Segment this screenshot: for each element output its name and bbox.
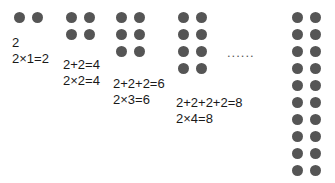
dot-group-3 xyxy=(116,12,145,63)
dot xyxy=(66,29,77,40)
dot-group-1 xyxy=(14,12,43,29)
dot xyxy=(310,148,321,159)
equation-block-4: 2+2+2+2=8 2×4=8 xyxy=(176,95,243,127)
dot-row xyxy=(292,131,321,148)
dot xyxy=(310,114,321,125)
dot-row xyxy=(178,12,207,29)
dot xyxy=(196,29,207,40)
dot xyxy=(292,148,303,159)
ellipsis-continuation: ...... xyxy=(227,46,255,59)
dot xyxy=(292,165,303,176)
dot-row xyxy=(178,29,207,46)
dot-row xyxy=(292,148,321,165)
dot-row xyxy=(14,12,43,29)
dot xyxy=(292,97,303,108)
dot-row xyxy=(116,29,145,46)
dot xyxy=(178,46,189,57)
equation-multiplication: 2×2=4 xyxy=(63,73,100,89)
dot xyxy=(292,29,303,40)
dot xyxy=(310,12,321,23)
dot xyxy=(178,63,189,74)
equation-addition: 2 xyxy=(12,35,49,51)
dot xyxy=(196,12,207,23)
dot xyxy=(134,46,145,57)
equation-addition: 2+2=4 xyxy=(63,57,100,73)
dot xyxy=(292,80,303,91)
dot xyxy=(178,29,189,40)
dot-row xyxy=(292,114,321,131)
dot-group-5 xyxy=(292,12,321,182)
dot-row xyxy=(292,63,321,80)
dot-row xyxy=(178,46,207,63)
dot-row xyxy=(116,46,145,63)
dot xyxy=(292,131,303,142)
dot xyxy=(310,97,321,108)
dot-row xyxy=(116,12,145,29)
dot xyxy=(310,46,321,57)
dot xyxy=(116,12,127,23)
dot xyxy=(292,63,303,74)
dot-group-4 xyxy=(178,12,207,80)
dot xyxy=(292,114,303,125)
dot xyxy=(32,12,43,23)
equation-addition: 2+2+2+2=8 xyxy=(176,95,243,111)
dot xyxy=(292,12,303,23)
dot-row xyxy=(292,80,321,97)
dot xyxy=(84,29,95,40)
dot-row xyxy=(292,46,321,63)
dot xyxy=(310,29,321,40)
dot-group-2 xyxy=(66,12,95,46)
dot-row xyxy=(292,97,321,114)
dot-row xyxy=(66,29,95,46)
equation-multiplication: 2×4=8 xyxy=(176,111,243,127)
dot xyxy=(14,12,25,23)
dot xyxy=(310,63,321,74)
dot-row xyxy=(66,12,95,29)
dot xyxy=(196,46,207,57)
dot xyxy=(134,29,145,40)
dot xyxy=(178,12,189,23)
dot xyxy=(116,46,127,57)
dot xyxy=(310,131,321,142)
equation-addition: 2+2+2=6 xyxy=(113,76,165,92)
equation-block-2: 2+2=4 2×2=4 xyxy=(63,57,100,89)
dot-row xyxy=(292,12,321,29)
equation-multiplication: 2×3=6 xyxy=(113,92,165,108)
dot xyxy=(134,12,145,23)
dot xyxy=(66,12,77,23)
dot-row xyxy=(178,63,207,80)
dot-row xyxy=(292,29,321,46)
equation-multiplication: 2×1=2 xyxy=(12,51,49,67)
dot xyxy=(84,12,95,23)
dot xyxy=(292,46,303,57)
dot xyxy=(310,165,321,176)
equation-block-3: 2+2+2=6 2×3=6 xyxy=(113,76,165,108)
dot xyxy=(116,29,127,40)
dot xyxy=(196,63,207,74)
dot xyxy=(310,80,321,91)
dot-row xyxy=(292,165,321,182)
figure-canvas: 2 2×1=2 2+2=4 2×2=4 2+2+2=6 2×3=6 xyxy=(0,0,335,183)
equation-block-1: 2 2×1=2 xyxy=(12,35,49,67)
